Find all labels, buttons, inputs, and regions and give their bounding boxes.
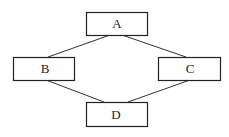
diagram-canvas: A B C D [0,0,229,137]
edge-a-c [122,35,186,57]
edge-c-d [128,80,190,102]
node-b: B [14,58,75,81]
edge-a-b [48,35,110,57]
node-a: A [87,13,148,36]
edge-b-d [46,80,104,102]
node-c: C [159,58,221,81]
node-d: D [87,103,148,127]
node-a-label: A [112,16,122,31]
node-d-label: D [111,107,120,122]
node-b-label: B [41,61,50,76]
node-c-label: C [186,61,195,76]
